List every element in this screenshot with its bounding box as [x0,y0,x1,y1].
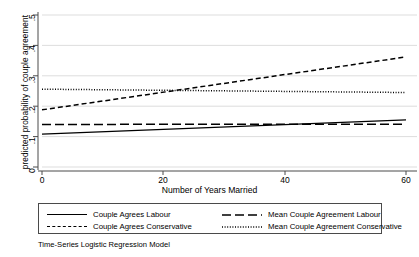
legend-key-solid-icon [47,210,87,220]
legend-entry-mean-couple-agreement-labour[interactable]: Mean Couple Agreement Labour [222,209,381,220]
legend-key-long-dashed-icon [222,210,262,220]
figure-caption: Time-Series Logistic Regression Model [38,241,170,249]
legend-label: Mean Couple Agreement Labour [268,211,381,219]
series-line-3 [42,89,406,92]
legend-key-dotted-svg [222,222,262,232]
legend-key-dotted-icon [222,222,262,232]
x-tick-label-1: 20 [152,176,174,185]
x-tick-label-0: 0 [31,176,53,185]
legend-key-long-dashed-svg [222,210,262,220]
chart-legend: Couple Agrees Labour Couple Agrees Conse… [38,203,382,234]
series-line-1 [42,57,406,110]
y-axis [33,12,38,170]
legend-entry-couple-agrees-labour[interactable]: Couple Agrees Labour [47,209,171,220]
data-series-layer [42,57,406,134]
series-line-0 [42,120,406,134]
x-tick-label-3: 60 [395,176,417,185]
x-axis [38,171,417,175]
x-axis-title: Number of Years Married [0,186,419,195]
legend-label: Mean Couple Agreement Conservative [268,223,402,231]
legend-entry-couple-agrees-conservative[interactable]: Couple Agrees Conservative [47,221,192,232]
legend-label: Couple Agrees Labour [93,211,171,219]
legend-entry-mean-couple-agreement-conservative[interactable]: Mean Couple Agreement Conservative [222,221,402,232]
legend-key-dashed-icon [47,222,87,232]
plot-area [0,0,419,200]
legend-label: Couple Agrees Conservative [93,223,192,231]
x-tick-label-2: 40 [274,176,296,185]
chart-figure: predicted probability of couple agreemen… [0,0,419,257]
